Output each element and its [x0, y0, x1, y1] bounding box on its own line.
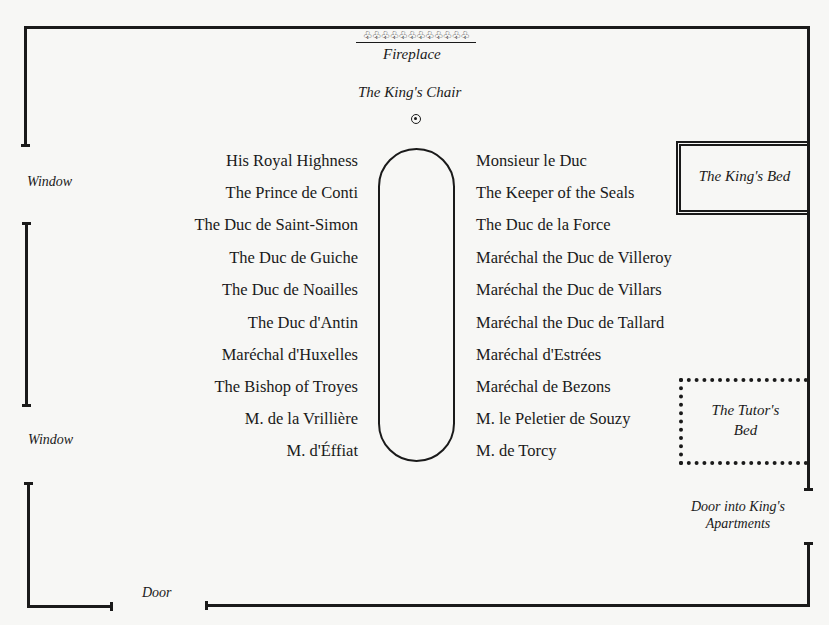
seat-left-7: Maréchal d'Huxelles — [222, 345, 358, 365]
seat-left-2: The Prince de Conti — [226, 183, 358, 203]
kings-chair-label: The King's Chair — [358, 84, 461, 101]
seat-right-6: Maréchal the Duc de Tallard — [476, 313, 664, 333]
wall-right-lower — [807, 542, 810, 607]
tutors-bed-label-line2: Bed — [683, 420, 808, 440]
seat-right-4: Maréchal the Duc de Villeroy — [476, 248, 672, 268]
wall-cap — [804, 488, 813, 491]
kings-bed-label: The King's Bed — [681, 168, 808, 185]
fireplace-ornament: ♧♧♧♧♧♧♧♧♧♧♧♧ — [356, 30, 476, 43]
seat-right-9: M. le Peletier de Souzy — [476, 409, 630, 429]
seat-left-10: M. d'Éffiat — [287, 441, 358, 461]
seat-left-3: The Duc de Saint-Simon — [194, 215, 358, 235]
kings-bed: The King's Bed — [676, 141, 808, 215]
kings-chair-icon — [411, 114, 421, 124]
seat-left-1: His Royal Highness — [226, 151, 358, 171]
fireplace-label: Fireplace — [383, 46, 441, 63]
seat-left-9: M. de la Vrillière — [245, 409, 358, 429]
seat-right-8: Maréchal de Bezons — [476, 377, 611, 397]
tutors-bed-label: The Tutor's Bed — [683, 400, 808, 440]
seat-left-5: The Duc de Noailles — [222, 280, 358, 300]
seat-right-1: Monsieur le Duc — [476, 151, 587, 171]
council-table — [378, 148, 455, 462]
seating-right: Monsieur le Duc The Keeper of the Seals … — [476, 0, 736, 625]
seat-right-10: M. de Torcy — [476, 441, 557, 461]
seat-left-4: The Duc de Guiche — [229, 248, 358, 268]
seat-right-7: Maréchal d'Estrées — [476, 345, 601, 365]
tutors-bed: The Tutor's Bed — [679, 378, 808, 465]
seating-left: His Royal Highness The Prince de Conti T… — [0, 0, 358, 625]
seat-right-5: Maréchal the Duc de Villars — [476, 280, 662, 300]
seat-left-6: The Duc d'Antin — [248, 313, 358, 333]
seat-right-2: The Keeper of the Seals — [476, 183, 635, 203]
seat-right-3: The Duc de la Force — [476, 215, 611, 235]
seat-left-8: The Bishop of Troyes — [215, 377, 358, 397]
tutors-bed-label-line1: The Tutor's — [683, 400, 808, 420]
